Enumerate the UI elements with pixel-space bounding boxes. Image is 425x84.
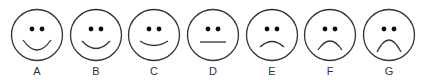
- face-label: F: [301, 65, 359, 77]
- very-happy-face-icon: [8, 0, 66, 66]
- face-c: C: [125, 0, 183, 84]
- happy-face-icon: [67, 0, 125, 66]
- face-label: A: [8, 65, 66, 77]
- face-rating-scale: A B C D: [0, 0, 425, 84]
- face-label: G: [360, 65, 418, 77]
- very-sad-face-icon: [360, 0, 418, 66]
- face-g: G: [360, 0, 418, 84]
- face-f: F: [301, 0, 359, 84]
- slightly-sad-face-icon: [243, 0, 301, 66]
- sad-face-icon: [301, 0, 359, 66]
- face-label: E: [243, 65, 301, 77]
- neutral-face-icon: [184, 0, 242, 66]
- face-d: D: [184, 0, 242, 84]
- face-label: D: [184, 65, 242, 77]
- face-label: B: [67, 65, 125, 77]
- face-e: E: [243, 0, 301, 84]
- face-label: C: [125, 65, 183, 77]
- face-b: B: [67, 0, 125, 84]
- slightly-happy-face-icon: [125, 0, 183, 66]
- face-a: A: [8, 0, 66, 84]
